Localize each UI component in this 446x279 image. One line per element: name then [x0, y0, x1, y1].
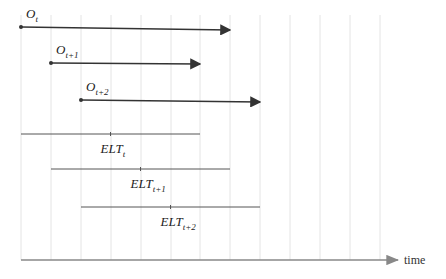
observation-label: Ot	[26, 6, 38, 24]
time-axis-label: time	[404, 253, 425, 268]
observation-label: Ot+2	[86, 79, 108, 97]
start-dot	[19, 25, 23, 29]
observation-arrow	[81, 100, 260, 102]
observation-arrows	[19, 25, 260, 102]
elt-label: ELTt	[101, 141, 126, 159]
elt-label: ELTt+2	[161, 214, 196, 232]
observation-arrow	[21, 27, 230, 30]
start-dot	[79, 98, 83, 102]
elt-label: ELTt+1	[131, 176, 166, 194]
elt-spans	[21, 132, 260, 209]
observation-arrow	[51, 63, 200, 64]
start-dot	[49, 61, 53, 65]
observation-label: Ot+1	[56, 42, 78, 60]
